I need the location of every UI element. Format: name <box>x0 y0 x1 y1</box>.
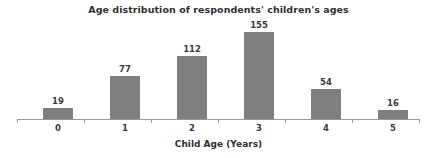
x-tick-label-4: 4 <box>304 123 348 133</box>
bar-value-label: 19 <box>43 96 73 106</box>
bar-age-5[interactable] <box>378 110 408 119</box>
x-axis-tick <box>352 119 353 123</box>
bar-value-label: 112 <box>177 44 207 54</box>
x-axis-tick <box>218 119 219 123</box>
bar-chart-figure: Age distribution of respondents' childre… <box>0 0 437 158</box>
bar-age-3[interactable] <box>244 32 274 119</box>
x-axis-tick <box>84 119 85 123</box>
x-tick-label-1: 1 <box>103 123 147 133</box>
bar-value-label: 16 <box>378 98 408 108</box>
x-tick-label-5: 5 <box>371 123 415 133</box>
bar-age-4[interactable] <box>311 89 341 119</box>
x-axis-tick <box>419 119 420 123</box>
bar-value-label: 77 <box>110 64 140 74</box>
bar-age-1[interactable] <box>110 76 140 119</box>
x-tick-label-3: 3 <box>237 123 281 133</box>
x-tick-label-0: 0 <box>36 123 80 133</box>
bar-age-2[interactable] <box>177 56 207 119</box>
x-axis-tick <box>17 119 18 123</box>
bar-age-0[interactable] <box>43 108 73 119</box>
x-tick-label-2: 2 <box>170 123 214 133</box>
plot-area: 19 77 112 155 54 16 0 1 2 3 4 5 <box>0 0 437 158</box>
bar-value-label: 54 <box>311 77 341 87</box>
x-axis-title: Child Age (Years) <box>0 139 437 149</box>
bar-value-label: 155 <box>244 20 274 30</box>
x-axis-tick <box>151 119 152 123</box>
x-axis-tick <box>285 119 286 123</box>
